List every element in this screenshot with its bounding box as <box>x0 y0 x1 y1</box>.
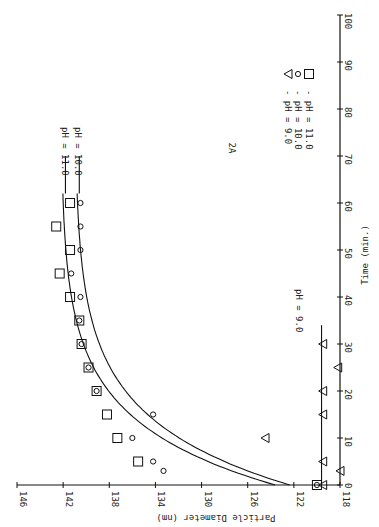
square-point <box>66 199 75 208</box>
square-point <box>66 246 75 255</box>
circle-point <box>86 365 91 370</box>
curve-label-ph9: pH = 9.0 <box>294 289 304 332</box>
time-tick-label: 50 <box>343 248 353 259</box>
triangle-point <box>319 387 327 396</box>
diameter-tick-label: 130 <box>203 491 213 507</box>
time-tick-label: 90 <box>343 60 353 71</box>
time-axis-label: Time (min.) <box>360 225 370 285</box>
diameter-tick-label: 126 <box>249 491 259 507</box>
fit-curves <box>63 156 322 485</box>
triangle-point <box>319 410 327 419</box>
chart: 1181221261301341381421460102030405060708… <box>0 0 379 527</box>
circle-point <box>151 459 156 464</box>
diameter-tick-label: 122 <box>295 491 305 507</box>
diameter-tick-label: 142 <box>64 491 74 507</box>
triangle-point <box>319 457 327 466</box>
legend-square-icon <box>305 70 314 79</box>
fit-curve-ph10 <box>77 194 289 485</box>
time-tick-label: 100 <box>343 13 353 29</box>
circle-point <box>78 200 83 205</box>
diameter-tick-label: 146 <box>18 491 28 507</box>
time-tick-label: 40 <box>343 295 353 306</box>
diameter-tick-label: 138 <box>110 491 120 507</box>
time-tick-label: 20 <box>343 389 353 400</box>
circle-point <box>130 435 135 440</box>
curve-label-ph11: pH = 11.0 <box>60 127 70 176</box>
square-point <box>55 269 64 278</box>
panel-label: 2A <box>227 143 237 154</box>
diameter-tick-label: 118 <box>341 491 351 507</box>
curve-label-ph10: pH = 10.0 <box>73 127 83 176</box>
circle-point <box>151 412 156 417</box>
legend-ph11: - pH = 11.0 <box>304 90 314 150</box>
time-tick-label: 70 <box>343 154 353 165</box>
time-tick-label: 0 <box>343 483 353 488</box>
time-tick-label: 10 <box>343 436 353 447</box>
square-point <box>92 387 101 396</box>
labels: Particle Diameter (nm) Time (min.) 2A - … <box>60 90 370 523</box>
time-tick-label: 30 <box>343 342 353 353</box>
legend-ph10: - pH = 10.0 <box>293 90 303 150</box>
square-point <box>66 293 75 302</box>
fit-curve-ph11 <box>63 194 275 485</box>
axes: 1181221261301341381421460102030405060708… <box>17 13 353 507</box>
triangle-point <box>261 434 269 443</box>
legend-triangle-icon <box>284 70 292 79</box>
diameter-tick-label: 134 <box>156 491 166 507</box>
circle-point <box>69 271 74 276</box>
circle-point <box>161 468 166 473</box>
triangle-point <box>319 340 327 349</box>
square-point <box>52 222 61 231</box>
legend-ph9: - pH = 9.0 <box>283 90 293 144</box>
square-point <box>134 457 143 466</box>
legend-circle-icon <box>295 71 300 76</box>
circle-point <box>94 388 99 393</box>
time-tick-label: 60 <box>343 201 353 212</box>
circle-point <box>77 318 82 323</box>
square-point <box>113 434 122 443</box>
time-tick-label: 80 <box>343 107 353 118</box>
diameter-axis-label: Particle Diameter (nm) <box>156 513 275 523</box>
circle-point <box>78 294 83 299</box>
square-point <box>102 410 111 419</box>
